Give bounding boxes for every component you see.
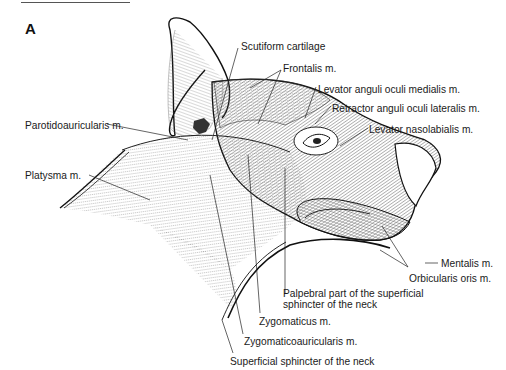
label-superficial-sphincter-of-neck: Superficial sphincter of the neck (230, 356, 374, 367)
label-zygomaticoauricularis: Zygomaticoauricularis m. (244, 336, 357, 347)
label-palpebral-part-line2: sphincter of the neck (283, 299, 377, 310)
label-levator-nasolabialis: Levator nasolabialis m. (369, 124, 473, 135)
label-parotidoauricularis: Parotidoauricularis m. (25, 120, 124, 131)
label-frontalis: Frontalis m. (283, 63, 336, 74)
label-scutiform-cartilage: Scutiform cartilage (241, 41, 325, 52)
label-orbicularis-oris: Orbicularis oris m. (409, 273, 491, 284)
label-mentalis: Mentalis m. (441, 258, 493, 269)
label-palpebral-part-line1: Palpebral part of the superficial (283, 288, 423, 299)
label-platysma: Platysma m. (25, 170, 81, 181)
label-zygomaticus: Zygomaticus m. (259, 316, 331, 327)
label-levator-anguli-oculi-medialis: Levator anguli oculi medialis m. (318, 84, 460, 95)
dog-head-illustration (0, 0, 506, 370)
label-retractor-anguli-oculi-lateralis: Retractor anguli oculi lateralis m. (332, 103, 480, 114)
